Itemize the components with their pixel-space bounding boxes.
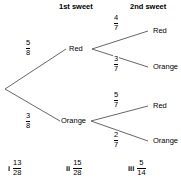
probability-tree-diagram: 1st sweet 2nd sweet Red Orange Red Orang… <box>0 0 181 183</box>
answer-item: iii 5 14 <box>128 159 146 177</box>
node-first-sweet-orange: Orange <box>60 116 87 125</box>
fraction-denominator: 7 <box>114 65 118 73</box>
answer-fraction: 13 28 <box>13 159 21 177</box>
probability-label-red-after-red: 4 7 <box>113 14 119 32</box>
probability-label-red-first: 5 8 <box>25 39 31 57</box>
fraction-denominator: 28 <box>73 169 81 177</box>
answer-roman-numeral: iii <box>128 164 134 173</box>
probability-label-orange-first: 3 8 <box>25 112 31 130</box>
answer-fraction: 5 14 <box>137 159 145 177</box>
node-first-sweet-red: Red <box>68 44 84 53</box>
branch-orange-to-orange <box>91 121 148 141</box>
fraction-denominator: 7 <box>114 24 118 32</box>
probability-label-orange-after-red: 3 7 <box>113 55 119 73</box>
fraction-numerator: 5 <box>137 159 145 167</box>
fraction-denominator: 8 <box>26 49 30 57</box>
branch-root-to-orange <box>5 89 60 121</box>
fraction-denominator: 28 <box>13 169 21 177</box>
branch-orange-to-red <box>91 106 148 121</box>
fraction-numerator: 3 <box>26 112 30 120</box>
fraction-numerator: 5 <box>114 91 118 99</box>
fraction-numerator: 13 <box>13 159 21 167</box>
fraction-numerator: 3 <box>114 55 118 63</box>
node-second-sweet-orange-after-red: Orange <box>152 62 179 71</box>
answer-item: i 13 28 <box>8 159 21 177</box>
fraction-denominator: 14 <box>137 169 145 177</box>
answers-row: i 13 28 ii 15 28 iii 5 14 <box>0 159 181 183</box>
answer-fraction: 15 28 <box>73 159 81 177</box>
fraction-denominator: 7 <box>114 101 118 109</box>
node-second-sweet-red-after-red: Red <box>152 26 168 35</box>
fraction-numerator: 2 <box>114 131 118 139</box>
branch-red-to-red <box>92 31 148 49</box>
fraction-numerator: 5 <box>26 39 30 47</box>
answer-roman-numeral: ii <box>66 164 70 173</box>
fraction-numerator: 15 <box>73 159 81 167</box>
fraction-denominator: 7 <box>114 141 118 149</box>
answer-roman-numeral: i <box>8 164 10 173</box>
fraction-denominator: 8 <box>26 122 30 130</box>
probability-label-orange-after-orange: 2 7 <box>113 131 119 149</box>
probability-label-red-after-orange: 5 7 <box>113 91 119 109</box>
fraction-numerator: 4 <box>114 14 118 22</box>
node-second-sweet-red-after-orange: Red <box>152 101 168 110</box>
branch-red-to-orange <box>92 49 148 67</box>
answer-item: ii 15 28 <box>66 159 82 177</box>
node-second-sweet-orange-after-orange: Orange <box>152 136 179 145</box>
branch-root-to-red <box>5 49 66 89</box>
